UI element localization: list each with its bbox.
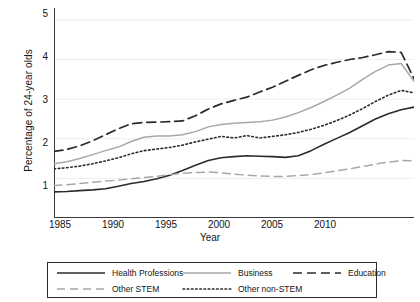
legend-key-other-stem bbox=[56, 284, 106, 294]
legend-item-other-non-stem[interactable]: Other non-STEM bbox=[182, 280, 302, 297]
legend-key-education bbox=[292, 268, 342, 278]
y-tick-label-5: 5 bbox=[22, 8, 48, 19]
y-tick-label-1: 1 bbox=[22, 180, 48, 191]
series-line-business bbox=[54, 63, 414, 163]
legend-row-2: Other STEM Other non-STEM bbox=[48, 280, 376, 297]
y-axis-title: Percentage of 24-year olds bbox=[23, 21, 34, 201]
chart-legend: Health Professions Business Education bbox=[47, 262, 377, 298]
y-tick-label-4: 4 bbox=[22, 51, 48, 62]
y-tick-label-3: 3 bbox=[22, 94, 48, 105]
legend-label-health-professions: Health Professions bbox=[112, 268, 183, 278]
legend-item-health-professions[interactable]: Health Professions bbox=[56, 264, 183, 281]
plot-canvas bbox=[54, 8, 414, 218]
legend-key-health-professions bbox=[56, 268, 106, 278]
legend-row-1: Health Professions Business Education bbox=[48, 264, 376, 281]
chart-figure: Percentage of 24-year olds Year 5 4 3 2 … bbox=[0, 0, 420, 302]
x-tick-label-2005: 2005 bbox=[242, 219, 302, 230]
x-tick-label-2000: 2000 bbox=[189, 219, 249, 230]
y-tick-label-2: 2 bbox=[22, 137, 48, 148]
legend-label-other-stem: Other STEM bbox=[112, 284, 159, 294]
series-line-other-stem bbox=[54, 161, 414, 186]
legend-label-education: Education bbox=[348, 268, 386, 278]
x-tick-label-1990: 1990 bbox=[83, 219, 143, 230]
x-tick-label-2010: 2010 bbox=[295, 219, 355, 230]
legend-key-business bbox=[182, 268, 232, 278]
legend-item-other-stem[interactable]: Other STEM bbox=[56, 280, 159, 297]
legend-key-other-non-stem bbox=[182, 284, 232, 294]
legend-label-other-non-stem: Other non-STEM bbox=[238, 284, 302, 294]
legend-item-education[interactable]: Education bbox=[292, 264, 386, 281]
x-tick-label-1995: 1995 bbox=[136, 219, 196, 230]
x-axis-title: Year bbox=[0, 232, 420, 243]
series-line-education bbox=[54, 52, 414, 152]
legend-label-business: Business bbox=[238, 268, 273, 278]
x-tick-label-1985: 1985 bbox=[30, 219, 90, 230]
legend-item-business[interactable]: Business bbox=[182, 264, 273, 281]
plot-area bbox=[54, 8, 414, 218]
